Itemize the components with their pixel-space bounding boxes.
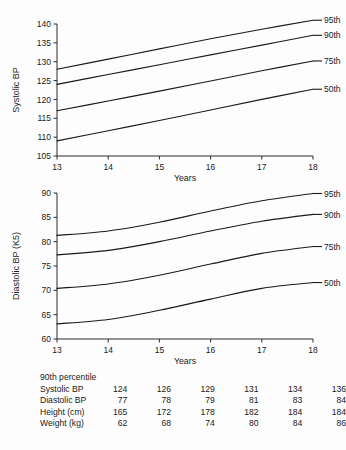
series-label-50th: 50th [324,84,341,94]
curve-95th [57,20,313,69]
table-caption: 90th percentile [40,372,346,384]
y-tick-label: 80 [42,237,52,247]
table-cell: 182 [215,407,259,419]
table-row: Systolic BP124126129131134136 [40,384,346,396]
series-label-50th: 50th [324,278,341,288]
y-tick-label: 65 [42,310,52,320]
series-label-90th: 90th [324,210,341,220]
table-cell: 129 [171,384,215,396]
table-cell: 74 [171,418,215,430]
table-row: Weight (kg)626874808486 [40,418,346,430]
curve-75th [57,247,313,289]
table-caption-row: 90th percentile [40,372,346,384]
axis-spine [57,193,313,339]
reference-data-table-block: 90th percentileSystolic BP12412612913113… [0,372,346,430]
x-tick-label: 15 [155,162,165,172]
table-cell: 178 [171,407,215,419]
y-tick-label: 105 [37,151,51,161]
x-tick-label: 15 [155,345,165,355]
curve-90th [57,35,313,84]
y-tick-label: 85 [42,212,52,222]
curve-50th [57,89,313,141]
table-row: Diastolic BP777879818384 [40,395,346,407]
curve-90th [57,214,313,254]
table-row: Height (cm)165172178182184184 [40,407,346,419]
table-cell: 79 [171,395,215,407]
y-tick-label: 130 [37,57,51,67]
y-axis-title: Systolic BP [11,67,21,113]
table-cell: 165 [84,407,128,419]
curve-50th [57,283,313,324]
curve-75th [57,61,313,111]
table-cell: 184 [302,407,346,419]
table-cell: 136 [302,384,346,396]
chart-systolic: 105110115120125130135140131415161718Year… [11,15,341,182]
curve-95th [57,193,313,235]
table-cell: 78 [127,395,171,407]
table-cell: 80 [215,418,259,430]
x-tick-label: 16 [206,162,216,172]
series-label-95th: 95th [324,15,341,25]
table-cell: 84 [302,395,346,407]
table-cell: 131 [215,384,259,396]
x-axis-title: Years [174,173,197,183]
series-label-90th: 90th [324,30,341,40]
series-label-75th: 75th [324,242,341,252]
series-label-95th: 95th [324,189,341,199]
table-cell: 68 [127,418,171,430]
charts-svg: 105110115120125130135140131415161718Year… [0,0,346,372]
x-tick-label: 17 [257,345,267,355]
table-cell: 62 [84,418,128,430]
table-cell: 77 [84,395,128,407]
table-cell: 134 [259,384,303,396]
y-tick-label: 115 [37,113,51,123]
series-label-75th: 75th [324,56,341,66]
table-cell: 184 [259,407,303,419]
y-tick-label: 90 [42,188,52,198]
table-row-label: Height (cm) [40,407,84,419]
table-cell: 124 [84,384,128,396]
x-tick-label: 18 [308,162,318,172]
y-tick-label: 120 [37,95,51,105]
table-row-label: Systolic BP [40,384,84,396]
x-tick-label: 16 [206,345,216,355]
table-cell: 83 [259,395,303,407]
y-tick-label: 135 [37,38,51,48]
y-tick-label: 140 [37,19,51,29]
x-tick-label: 13 [52,345,62,355]
y-axis-title: Diastolic BP (K5) [11,232,21,300]
table-row-label: Diastolic BP [40,395,84,407]
y-tick-label: 75 [42,261,52,271]
table-cell: 84 [259,418,303,430]
y-tick-label: 60 [42,334,52,344]
x-tick-label: 18 [308,345,318,355]
x-tick-label: 14 [103,345,113,355]
table-cell: 126 [127,384,171,396]
y-tick-label: 125 [37,76,51,86]
table-row-label: Weight (kg) [40,418,84,430]
y-tick-label: 110 [37,132,51,142]
table-cell: 86 [302,418,346,430]
table-cell: 172 [127,407,171,419]
table-cell: 81 [215,395,259,407]
y-tick-label: 70 [42,285,52,295]
x-tick-label: 14 [103,162,113,172]
reference-data-table: 90th percentileSystolic BP12412612913113… [40,372,346,430]
x-axis-title: Years [174,356,197,366]
chart-diastolic: 60657075808590131415161718YearsDiastolic… [11,188,341,365]
x-tick-label: 17 [257,162,267,172]
x-tick-label: 13 [52,162,62,172]
